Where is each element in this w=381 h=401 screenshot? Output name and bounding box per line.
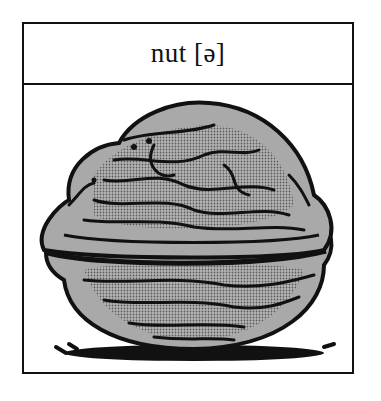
walnut-icon <box>24 85 352 372</box>
card-header: nut [ə] <box>24 24 352 85</box>
walnut-illustration <box>24 85 352 372</box>
word-label: nut [ə] <box>151 38 226 69</box>
vocabulary-card: nut [ə] <box>22 22 354 374</box>
